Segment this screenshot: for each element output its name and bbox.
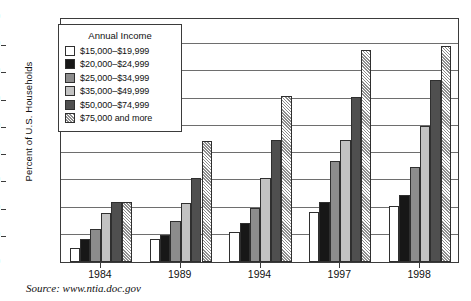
bar [240,223,250,262]
bar [229,232,239,262]
legend-title: Annual Income [65,30,175,41]
bar-group [309,19,371,262]
legend-item: $50,000–$74,999 [65,99,175,110]
legend-item: $25,000–$34,999 [65,72,175,83]
legend-item-label: $75,000 and more [80,113,152,123]
bar [250,208,260,262]
x-axis-tick-label: 1994 [230,268,290,280]
bar [340,140,350,263]
legend-swatch-icon [65,113,75,123]
bar [160,235,170,262]
legend-item-label: $35,000–$49,999 [80,86,149,96]
legend-item-label: $25,000–$34,999 [80,73,149,83]
legend-item: $75,000 and more [65,113,175,124]
bar [191,178,201,262]
y-axis-tick-mark [1,72,6,73]
bar [441,46,451,262]
legend: Annual Income $15,000–$19,999$20,000–$24… [58,24,182,132]
x-axis-tick-label: 1989 [150,268,210,280]
y-axis-tick-mark [1,45,6,46]
bar-group [389,19,451,262]
bar [399,195,409,262]
legend-swatch-icon [65,86,75,96]
legend-swatch-icon [65,100,75,110]
bar [150,239,160,262]
bar [430,80,440,262]
y-axis-tick-mark [1,127,6,128]
bar-group [229,19,291,262]
legend-item: $15,000–$19,999 [65,45,175,56]
bar [271,140,281,263]
chart-figure: Percent of U.S. Households 0102030405060… [0,0,471,301]
legend-item: $35,000–$49,999 [65,86,175,97]
legend-item: $20,000–$24,999 [65,59,175,70]
bar [170,221,180,262]
bar [70,248,80,262]
bar [410,167,420,262]
bar [351,97,361,262]
bar [122,202,132,262]
bar [319,202,329,262]
y-axis-tick-mark [1,181,6,182]
bar [260,178,270,262]
bar [389,206,399,262]
y-axis-tick-mark [1,100,6,101]
source-note: Source: www.ntia.doc.gov [26,282,141,294]
legend-item-label: $15,000–$19,999 [80,46,149,56]
bar [202,141,212,262]
bar [111,202,121,262]
legend-item-label: $20,000–$24,999 [80,59,149,69]
legend-swatch-icon [65,46,75,56]
y-axis-title: Percent of U.S. Households [23,22,34,222]
bar [330,161,340,262]
bar [361,50,371,262]
legend-swatch-icon [65,59,75,69]
x-axis-tick-label: 1984 [70,268,130,280]
legend-swatch-icon [65,73,75,83]
bar [281,96,291,262]
legend-entries: $15,000–$19,999$20,000–$24,999$25,000–$3… [65,45,175,124]
x-axis-tick-label: 1998 [389,268,449,280]
y-axis-tick-mark [1,236,6,237]
legend-item-label: $50,000–$74,999 [80,100,149,110]
bar [101,213,111,262]
bar [309,212,319,262]
bar [80,239,90,262]
y-axis-tick-mark [1,154,6,155]
bar [420,126,430,262]
y-axis-tick-mark [1,209,6,210]
bar [90,229,100,262]
x-axis-tick-label: 1997 [309,268,369,280]
bar [181,203,191,262]
